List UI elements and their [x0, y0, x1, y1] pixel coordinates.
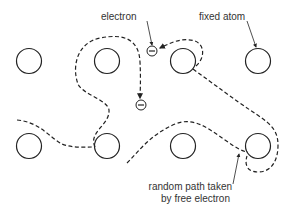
atom-r2c2 — [95, 134, 120, 159]
electron-top — [147, 46, 157, 56]
atom-r2c4 — [246, 134, 271, 159]
label-random-path-line2: by free electron — [161, 193, 230, 204]
atom-r1c2 — [95, 49, 120, 74]
label-electron: electron — [101, 11, 137, 22]
path-segment-loop — [76, 36, 141, 147]
electron-path — [17, 36, 278, 172]
atom-r1c4 — [246, 49, 271, 74]
atom-r1c1 — [17, 49, 42, 74]
diagram-canvas: electron fixed atom random path taken by… — [0, 0, 296, 212]
electron-middle — [136, 100, 146, 110]
atom-r2c3 — [171, 134, 196, 159]
label-fixed-atom: fixed atom — [199, 11, 245, 22]
path-segment-bottom — [127, 122, 248, 163]
path-segment-top — [160, 40, 203, 66]
atom-r2c1 — [17, 134, 42, 159]
free-electron-diagram: electron fixed atom random path taken by… — [0, 0, 296, 212]
leader-random-path — [233, 154, 239, 184]
atom-r1c3 — [171, 49, 196, 74]
label-random-path-line1: random path taken — [149, 181, 232, 192]
leader-fixed-atom — [247, 21, 256, 47]
leader-electron — [147, 21, 152, 45]
leader-lines — [147, 21, 256, 184]
